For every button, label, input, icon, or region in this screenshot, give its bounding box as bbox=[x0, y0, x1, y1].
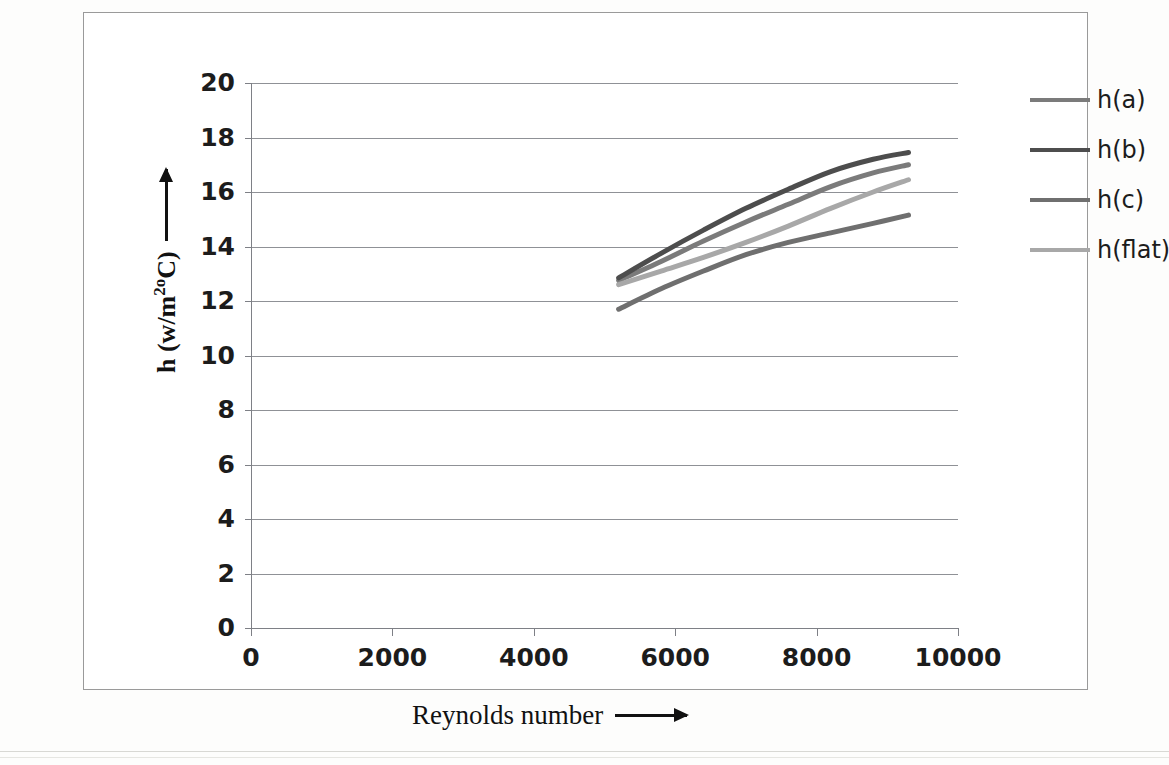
y-axis-tick-label: 10 bbox=[179, 343, 235, 368]
y-axis-title-text: h (w/m2oC) bbox=[150, 251, 182, 373]
x-axis-arrow-icon bbox=[615, 714, 687, 717]
y-axis-tick-label: 0 bbox=[179, 615, 235, 640]
scan-line bbox=[0, 751, 1169, 752]
series-line-hflat bbox=[619, 180, 909, 285]
x-axis-tick-label: 6000 bbox=[615, 645, 735, 670]
legend-label: h(a) bbox=[1097, 88, 1146, 112]
legend-item[interactable]: h(a) bbox=[1030, 75, 1169, 125]
y-axis-tick-label: 2 bbox=[179, 561, 235, 586]
x-axis-tick bbox=[392, 628, 393, 636]
x-axis-tick-label: 8000 bbox=[757, 645, 877, 670]
legend-swatch-icon bbox=[1030, 198, 1090, 202]
y-axis-tick-label: 18 bbox=[179, 125, 235, 150]
plot-area bbox=[251, 83, 958, 628]
y-axis-title-superscript: 2o bbox=[150, 279, 169, 296]
legend-swatch-icon bbox=[1030, 148, 1090, 152]
legend-label: h(b) bbox=[1097, 138, 1146, 162]
y-axis-tick-label: 4 bbox=[179, 506, 235, 531]
y-axis-title: h (w/m2oC) bbox=[146, 153, 186, 373]
x-axis-tick-label: 0 bbox=[191, 645, 311, 670]
x-axis-tick-label: 10000 bbox=[898, 645, 1018, 670]
series-lines bbox=[251, 83, 958, 629]
x-axis-tick bbox=[251, 628, 252, 636]
legend-label: h(flat) bbox=[1097, 238, 1169, 262]
chart-frame: 02468101214161820 0200040006000800010000… bbox=[83, 12, 1088, 690]
x-axis-title-text: Reynolds number bbox=[412, 700, 603, 731]
x-axis-tick-label: 4000 bbox=[474, 645, 594, 670]
legend-item[interactable]: h(c) bbox=[1030, 175, 1169, 225]
x-axis-tick bbox=[817, 628, 818, 636]
x-axis-tick-label: 2000 bbox=[332, 645, 452, 670]
y-axis-arrow-icon bbox=[165, 169, 168, 241]
legend-swatch-icon bbox=[1030, 248, 1090, 252]
y-axis-tick-label: 16 bbox=[179, 179, 235, 204]
y-axis-tick-label: 20 bbox=[179, 70, 235, 95]
y-axis-tick-label: 6 bbox=[179, 452, 235, 477]
y-axis-tick-label: 14 bbox=[179, 234, 235, 259]
x-axis-title: Reynolds number bbox=[412, 700, 687, 731]
legend: h(a)h(b)h(c)h(flat) bbox=[1030, 75, 1169, 275]
legend-label: h(c) bbox=[1097, 188, 1144, 212]
y-axis-title-tail: C) bbox=[152, 251, 181, 278]
legend-swatch-icon bbox=[1030, 98, 1090, 102]
x-axis-tick bbox=[958, 628, 959, 636]
scan-line bbox=[0, 757, 1169, 758]
legend-item[interactable]: h(b) bbox=[1030, 125, 1169, 175]
y-axis-title-base: h (w/m bbox=[152, 296, 181, 373]
y-axis-tick-label: 12 bbox=[179, 288, 235, 313]
y-axis-tick-label: 8 bbox=[179, 397, 235, 422]
x-axis-tick bbox=[675, 628, 676, 636]
x-axis-tick bbox=[534, 628, 535, 636]
legend-item[interactable]: h(flat) bbox=[1030, 225, 1169, 275]
